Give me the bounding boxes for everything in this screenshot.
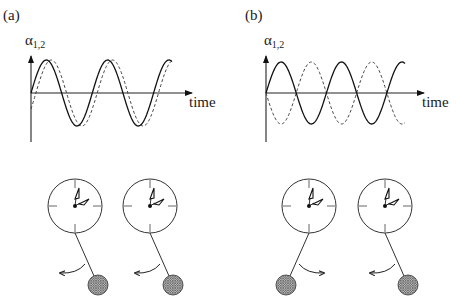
panel-b: (b) α1,2 time [245,7,449,295]
pendulum-bob [88,275,108,295]
panel-b-plot: α1,2 time [264,32,449,142]
panel-a-y-axis-label-main: α [25,32,33,48]
clock-pivot [148,204,152,208]
panel-a-clock-2 [123,179,183,295]
panel-b-y-axis-label: α1,2 [264,32,284,50]
panel-b-y-axis-label-sub: 1,2 [272,39,285,50]
clock-pivot [383,204,387,208]
panel-b-y-axis-label-main: α [264,32,272,48]
pendulum-bob [276,275,296,295]
panel-b-x-axis-label: time [422,94,449,110]
panel-a-y-axis-label: α1,2 [25,32,45,50]
swing-left-arrow-icon [60,264,85,273]
panel-a-y-axis-label-sub: 1,2 [33,39,46,50]
pendulum-bob [398,275,418,295]
panel-b-label: (b) [245,7,263,24]
panel-a: (a) α1,2 time [3,7,216,295]
swing-left-arrow-icon [135,264,160,273]
figure: (a) α1,2 time (b) α1,2 time [0,0,456,303]
panel-b-clock-2 [358,179,418,295]
panel-b-clock-1 [276,179,336,295]
swing-right-arrow-icon [299,264,324,273]
clock-pivot [73,204,77,208]
panel-a-x-axis-label: time [189,94,216,110]
pendulum-bob [163,275,183,295]
swing-left-arrow-icon [370,264,395,273]
panel-a-plot: α1,2 time [25,32,216,142]
panel-a-clock-1 [48,179,108,295]
panel-a-label: (a) [3,7,20,24]
clock-pivot [307,204,311,208]
